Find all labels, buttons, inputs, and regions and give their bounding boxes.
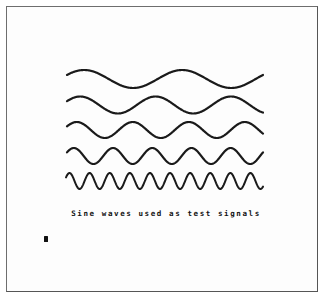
sine-waves-diagram — [0, 0, 325, 300]
sine-wave-1 — [67, 70, 263, 88]
sine-wave-3 — [67, 122, 263, 138]
block-cursor-icon — [44, 236, 48, 242]
sine-wave-4 — [67, 148, 263, 164]
sine-wave-2 — [67, 97, 263, 114]
figure-caption: Sine waves used as test signals — [66, 209, 266, 218]
sine-wave-5 — [66, 173, 263, 189]
